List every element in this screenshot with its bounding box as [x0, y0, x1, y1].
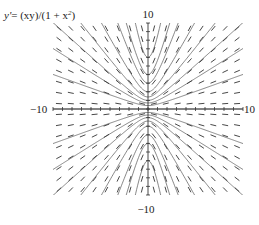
slope-segment — [176, 36, 179, 41]
slope-segment — [223, 37, 227, 41]
slope-segment — [93, 166, 97, 170]
slope-segment — [211, 166, 215, 170]
slope-segment — [139, 103, 145, 104]
slope-segment — [153, 25, 155, 31]
slope-segment — [198, 114, 204, 115]
slope-segment — [69, 187, 73, 191]
slope-segment — [80, 124, 86, 125]
y-max-label: 10 — [143, 8, 155, 20]
slope-segment — [93, 48, 97, 52]
slope-segment — [104, 58, 108, 62]
slope-segment — [56, 81, 62, 83]
slope-segment — [211, 48, 215, 52]
slope-segment — [80, 135, 86, 137]
slope-segment — [165, 155, 168, 160]
slope-segment — [140, 91, 145, 95]
slope-segment — [188, 58, 192, 62]
slope-segment — [80, 48, 84, 52]
slope-segment — [80, 81, 86, 83]
x-min-label: −10 — [30, 103, 48, 115]
slope-segment — [187, 134, 192, 137]
slope-segment — [69, 177, 73, 181]
slope-segment — [129, 58, 132, 63]
slope-segment — [152, 69, 155, 74]
equation-label: y'= (xy)/(1 + x2) — [3, 9, 75, 22]
slope-segment — [153, 176, 155, 182]
slope-segment — [175, 114, 181, 115]
slope-segment — [140, 123, 145, 127]
slope-segment — [223, 166, 228, 170]
slope-segment — [57, 177, 62, 181]
slope-segment — [152, 91, 157, 95]
slope-segment — [211, 37, 215, 41]
slope-segment — [223, 187, 227, 191]
slope-segment — [165, 25, 167, 31]
slope-segment — [199, 155, 204, 159]
slope-segment — [152, 123, 157, 127]
slope-segment — [211, 70, 216, 73]
slope-segment — [210, 92, 216, 93]
slope-segment — [235, 26, 239, 30]
slope-segment — [176, 155, 179, 160]
slope-segment — [234, 92, 240, 93]
slope-segment — [200, 26, 203, 31]
slope-segment — [68, 48, 73, 52]
slope-segment — [235, 188, 239, 192]
slope-segment — [199, 135, 204, 138]
slope-segment — [105, 47, 109, 52]
slope-segment — [163, 103, 169, 104]
slope-segment — [92, 124, 98, 126]
slope-segment — [175, 124, 180, 127]
slope-segment — [188, 47, 192, 52]
slope-segment — [234, 70, 240, 72]
slope-segment — [199, 48, 203, 52]
slope-segment — [188, 37, 191, 42]
slope-segment — [188, 166, 192, 171]
slope-segment — [117, 166, 120, 171]
slope-segment — [163, 114, 169, 115]
slope-segment — [139, 114, 145, 115]
slope-segment — [141, 36, 143, 42]
slope-segment — [92, 114, 98, 115]
slope-segment — [93, 26, 96, 31]
slope-segment — [68, 70, 73, 73]
slope-segment — [234, 81, 240, 83]
slope-segment — [152, 144, 155, 149]
slope-segment — [92, 70, 97, 73]
slope-segment — [129, 69, 132, 74]
slope-segment — [222, 92, 228, 93]
slope-segment — [80, 166, 84, 170]
slope-segment — [116, 124, 121, 127]
slope-segment — [80, 59, 85, 63]
slope-segment — [153, 187, 155, 193]
slope-segment — [188, 176, 191, 181]
slope-segment — [92, 59, 97, 63]
slope-segment — [68, 92, 74, 93]
slope-segment — [211, 145, 216, 148]
slope-segment — [68, 166, 73, 170]
slope-segment — [105, 176, 108, 181]
slope-segment — [81, 177, 85, 181]
slope-segment — [211, 59, 216, 63]
slope-segment — [234, 59, 239, 62]
slope-segment — [56, 92, 62, 93]
slope-segment — [234, 145, 240, 147]
slope-segment — [103, 103, 109, 104]
slope-segment — [234, 135, 240, 137]
slope-segment — [57, 37, 62, 41]
slope-segment — [223, 26, 227, 30]
slope-segment — [165, 187, 167, 193]
slope-segment — [141, 58, 143, 63]
slope-segment — [115, 114, 121, 115]
slope-segment — [222, 145, 227, 148]
slope-segment — [176, 47, 179, 52]
slope-segment — [153, 155, 155, 160]
slope-segment — [176, 176, 179, 181]
slope-segment — [211, 81, 217, 83]
slope-segment — [129, 187, 131, 193]
slope-segment — [199, 166, 203, 170]
slope-segment — [188, 155, 192, 159]
slope-segment — [117, 176, 120, 181]
slope-segment — [68, 145, 73, 148]
slope-segment — [56, 145, 62, 147]
